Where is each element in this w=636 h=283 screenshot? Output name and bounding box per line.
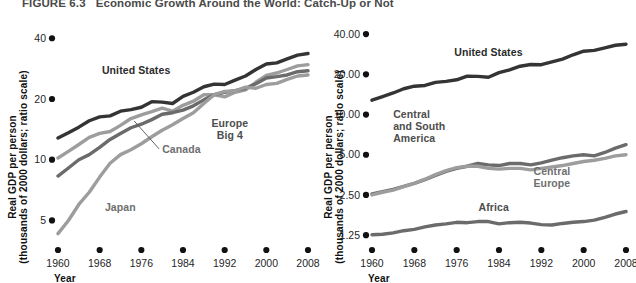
figure-caption: Economic Growth Around the World: Catch-… <box>96 0 394 9</box>
x-axis-tick-label: 1992 <box>530 257 554 269</box>
x-axis-tick-label: 2000 <box>255 257 279 269</box>
y-axis-tick-dot <box>363 71 369 77</box>
x-axis-tick-dot <box>305 247 311 253</box>
series-label-europe-big-4: Big 4 <box>217 129 243 141</box>
x-axis-tick-dot <box>454 247 460 253</box>
x-axis-tick-dot <box>180 247 186 253</box>
x-axis-tick-dot <box>222 247 228 253</box>
chart-right-svg: 40.0020.0010.005.002.501.251960196819761… <box>320 12 636 283</box>
chart-right-annotations: United StatesCentraland SouthAmericaCent… <box>393 46 570 213</box>
figure-number: FIGURE 6.3 <box>22 0 86 9</box>
chart-left-svg: 40201051960196819761984199220002008YearR… <box>0 12 320 283</box>
series-label-central-and-south-america: and South <box>393 120 445 132</box>
x-axis-tick-dot <box>138 247 144 253</box>
series-label-japan: Japan <box>105 201 136 213</box>
figure-title: FIGURE 6.3Economic Growth Around the Wor… <box>22 0 622 11</box>
x-axis-tick-dot <box>55 247 61 253</box>
chart-panel-right: 40.0020.0010.005.002.501.251960196819761… <box>320 12 636 283</box>
series-line-central-europe <box>372 155 626 195</box>
y-axis-tick-dot <box>363 232 369 238</box>
x-axis-tick-label: 1976 <box>445 257 469 269</box>
y-axis-title-line-2: (thousands of 2000 dollars; ratio scale) <box>18 70 29 264</box>
x-axis-tick-label: 2008 <box>614 257 636 269</box>
y-axis-tick-dot <box>363 111 369 117</box>
y-axis-tick-label: 5 <box>40 214 46 226</box>
y-axis-title-line-1: Real GDP per person <box>7 115 18 219</box>
series-label-central-and-south-america: America <box>393 132 435 144</box>
x-axis-tick-label: 1960 <box>360 257 384 269</box>
y-axis-tick-dot <box>363 192 369 198</box>
chart-panel-left: 40201051960196819761984199220002008YearR… <box>0 12 320 283</box>
x-axis-tick-dot <box>623 247 629 253</box>
x-axis-tick-dot <box>263 247 269 253</box>
y-axis-title-line-1: Real GDP per person <box>323 115 334 219</box>
y-axis-tick-dot <box>49 217 55 223</box>
y-axis-tick-dot <box>363 31 369 37</box>
y-axis-tick-dot <box>49 96 55 102</box>
series-line-africa <box>372 211 626 234</box>
chart-left-annotations: United StatesCanadaEuropeBig 4Japan <box>102 64 248 212</box>
x-axis-tick-label: 1968 <box>403 257 427 269</box>
series-label-central-europe: Central <box>533 165 570 177</box>
series-label-canada: Canada <box>162 143 201 155</box>
x-axis-tick-label: 2000 <box>572 257 596 269</box>
series-line-europe-big-4 <box>58 71 308 176</box>
y-axis-tick-label: 20 <box>34 93 46 105</box>
x-axis-title: Year <box>54 273 76 283</box>
series-line-united-states <box>58 54 308 139</box>
x-axis-tick-label: 1984 <box>487 257 511 269</box>
x-axis-tick-dot <box>97 247 103 253</box>
series-label-africa: Africa <box>479 201 509 213</box>
x-axis-tick-label: 1968 <box>88 257 112 269</box>
series-label-united-states: United States <box>454 46 522 58</box>
y-axis-tick-dot <box>363 152 369 158</box>
x-axis-tick-dot <box>581 247 587 253</box>
x-axis-tick-label: 2008 <box>296 257 320 269</box>
x-axis-tick-dot <box>411 247 417 253</box>
series-label-united-states: United States <box>102 64 170 76</box>
y-axis-title-line-2: (thousands of 2000 dollars; ratio scale) <box>334 70 345 264</box>
y-axis-tick-dot <box>49 157 55 163</box>
series-label-central-and-south-america: Central <box>393 108 430 120</box>
x-axis-tick-label: 1992 <box>213 257 237 269</box>
y-axis-tick-label: 40.00 <box>334 28 360 40</box>
x-axis-tick-dot <box>496 247 502 253</box>
y-axis-tick-dot <box>49 35 55 41</box>
y-axis-tick-label: 40 <box>34 32 46 44</box>
x-axis-tick-dot <box>538 247 544 253</box>
x-axis-tick-label: 1976 <box>130 257 154 269</box>
x-axis-tick-dot <box>369 247 375 253</box>
x-axis-tick-label: 1984 <box>171 257 195 269</box>
x-axis-tick-label: 1960 <box>46 257 70 269</box>
y-axis-tick-label: 10 <box>34 153 46 165</box>
x-axis-title: Year <box>368 273 390 283</box>
series-label-central-europe: Europe <box>534 177 571 189</box>
series-label-europe-big-4: Europe <box>211 117 248 129</box>
